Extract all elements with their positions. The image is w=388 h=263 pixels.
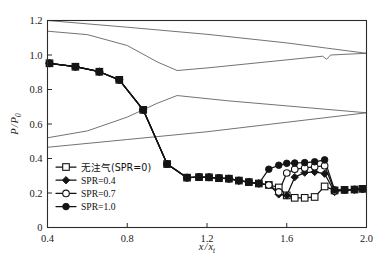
marker-3-2 <box>96 68 103 75</box>
marker-3-22 <box>341 187 348 194</box>
marker-3-14 <box>266 166 273 173</box>
legend-marker-open-square <box>63 164 70 171</box>
marker-3-7 <box>196 174 203 181</box>
marker-2-15 <box>275 189 282 196</box>
x-tick-label-3: 1.6 <box>280 233 293 244</box>
legend-label-0: 无注气(SPR=0) <box>81 162 151 173</box>
marker-3-3 <box>116 77 123 84</box>
marker-3-4 <box>140 107 147 114</box>
legend-marker-filled-circle <box>63 203 70 210</box>
marker-2-16 <box>283 170 290 177</box>
marker-3-11 <box>236 177 243 184</box>
marker-3-20 <box>321 157 328 164</box>
legend-label-2: SPR=0.7 <box>81 188 116 199</box>
marker-3-10 <box>226 175 233 182</box>
chart-figure: 0.40.81.21.62.0 00.20.40.60.81.01.2 x/xt… <box>0 0 388 263</box>
marker-3-1 <box>72 63 79 70</box>
marker-3-15 <box>275 162 282 169</box>
marker-3-17 <box>291 160 298 167</box>
y-tick-label-2: 0.4 <box>29 153 43 164</box>
y-tick-label-3: 0.6 <box>29 119 42 130</box>
legend-label-1: SPR=0.4 <box>81 175 116 186</box>
marker-3-18 <box>301 159 308 166</box>
y-tick-label-4: 0.8 <box>29 84 42 95</box>
marker-3-21 <box>331 187 338 194</box>
marker-3-23 <box>351 186 358 193</box>
marker-3-5 <box>164 161 171 168</box>
marker-0-17 <box>291 195 298 202</box>
marker-3-16 <box>283 160 290 167</box>
marker-3-19 <box>311 158 318 165</box>
x-tick-label-4: 2.0 <box>360 233 373 244</box>
marker-3-9 <box>216 175 223 182</box>
x-tick-label-1: 0.8 <box>121 233 134 244</box>
marker-2-17 <box>291 166 298 173</box>
marker-0-19 <box>311 194 318 201</box>
y-tick-label-6: 1.2 <box>29 15 42 26</box>
marker-3-13 <box>256 180 263 187</box>
y-tick-label-5: 1.0 <box>29 50 42 61</box>
marker-2-14 <box>266 182 273 189</box>
marker-3-24 <box>359 186 366 193</box>
legend-label-3: SPR=1.0 <box>81 201 116 212</box>
y-axis-denominator-subscript: 0 <box>14 113 23 117</box>
x-axis-numerator: x <box>198 241 204 252</box>
legend-marker-open-circle <box>63 190 70 197</box>
y-tick-label-0: 0 <box>37 222 42 233</box>
marker-3-12 <box>246 179 253 186</box>
y-tick-label-1: 0.2 <box>29 188 42 199</box>
x-tick-label-0: 0.4 <box>41 233 55 244</box>
marker-3-8 <box>206 174 213 181</box>
marker-3-6 <box>184 174 191 181</box>
pressure-distribution-chart: 0.40.81.21.62.0 00.20.40.60.81.01.2 x/xt… <box>0 0 388 263</box>
marker-0-18 <box>301 195 308 202</box>
chart-background <box>0 0 388 263</box>
marker-0-20 <box>321 183 328 190</box>
y-axis-numerator: P <box>9 128 20 136</box>
